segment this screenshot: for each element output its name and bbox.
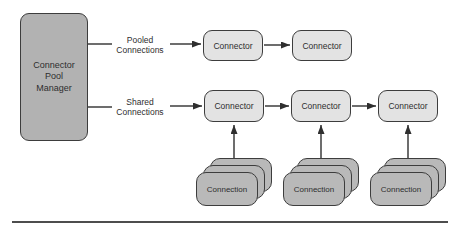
shared-connector-3: Connector bbox=[378, 90, 438, 122]
connector-pool-manager-box: Connector Pool Manager bbox=[20, 13, 88, 141]
connector-pool-diagram: Connector Pool Manager Pooled Connection… bbox=[0, 0, 458, 228]
pooled-connections-label: Pooled Connections bbox=[108, 36, 172, 55]
connection-box-front: Connection bbox=[196, 172, 258, 206]
pooled-connector-1: Connector bbox=[203, 30, 263, 61]
shared-connections-label: Shared Connections bbox=[108, 98, 172, 117]
connection-box-front: Connection bbox=[283, 172, 345, 206]
pooled-connector-2: Connector bbox=[292, 30, 352, 61]
connection-box-front: Connection bbox=[370, 172, 432, 206]
connection-stack-2: Connection bbox=[283, 158, 359, 206]
shared-connector-1: Connector bbox=[204, 90, 264, 122]
connection-stack-3: Connection bbox=[370, 158, 446, 206]
bottom-rule bbox=[12, 221, 448, 223]
shared-connector-2: Connector bbox=[291, 90, 351, 122]
connection-stack-1: Connection bbox=[196, 158, 272, 206]
